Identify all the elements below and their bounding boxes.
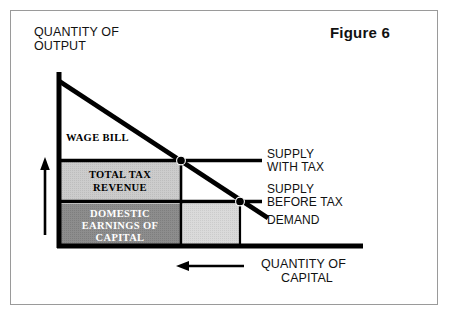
region-label-domestic-earnings-line1: DOMESTIC bbox=[60, 208, 180, 220]
x-axis-label-line2: CAPITAL bbox=[281, 272, 333, 286]
output-direction-arrow-up bbox=[40, 157, 50, 235]
figure-title: Figure 6 bbox=[330, 25, 390, 41]
capital-direction-arrow-left bbox=[176, 261, 244, 271]
equilibrium-dot-before-tax bbox=[236, 197, 245, 206]
area-residual-capital-block bbox=[183, 204, 240, 246]
region-label-total-tax-revenue-line2: REVENUE bbox=[60, 182, 180, 194]
curve-label-demand: DEMAND bbox=[267, 214, 320, 227]
region-label-total-tax-revenue-line1: TOTAL TAX bbox=[60, 169, 180, 181]
y-axis-label-line2: OUTPUT bbox=[34, 40, 86, 54]
y-axis-label-line1: QUANTITY OF bbox=[34, 26, 119, 40]
curve-label-supply-before-tax-line1: SUPPLY bbox=[267, 183, 314, 196]
figure-container: Figure 6 QUANTITY OF OUTPUT QUANTITY OF … bbox=[0, 0, 450, 317]
x-axis-label-line1: QUANTITY OF bbox=[261, 258, 346, 272]
equilibrium-dot-with-tax bbox=[177, 156, 186, 165]
region-label-wage-bill: WAGE BILL bbox=[66, 132, 156, 144]
curve-label-supply-with-tax-line1: SUPPLY bbox=[267, 148, 314, 161]
region-label-domestic-earnings-line3: CAPITAL bbox=[60, 232, 180, 244]
region-label-domestic-earnings-line2: EARNINGS OF bbox=[60, 220, 180, 232]
curve-label-supply-before-tax-line2: BEFORE TAX bbox=[267, 196, 343, 209]
curve-label-supply-with-tax-line2: WITH TAX bbox=[267, 161, 324, 174]
